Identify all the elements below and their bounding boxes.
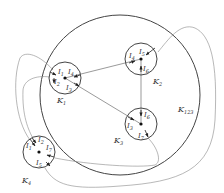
k123-label: K123 xyxy=(177,105,194,115)
node-k4: I1 I2 I7 I5 K4 xyxy=(21,136,55,186)
k3-label: K3 xyxy=(113,136,123,146)
k4-port-2: I2 xyxy=(37,136,44,145)
k2-port-6: I6 xyxy=(142,65,150,74)
k1-label: K1 xyxy=(56,96,66,106)
k4-port-1: I1 xyxy=(25,142,32,151)
k2-port-5: I5 xyxy=(138,48,145,57)
k1-port-4: I4 xyxy=(67,68,74,77)
k2-label: K2 xyxy=(152,77,162,87)
outer-region-k123 xyxy=(40,15,200,175)
k3-port-7: I7 xyxy=(137,132,145,141)
k1-port-3: I3 xyxy=(65,84,72,93)
k2-port-4: I4 xyxy=(128,52,135,61)
internal-edges xyxy=(65,59,141,124)
external-loops xyxy=(16,27,216,187)
k4-port-7: I7 xyxy=(45,144,53,153)
k3-port-6: I6 xyxy=(143,111,151,120)
k3-port-3: I3 xyxy=(126,122,133,131)
node-k1: I1 I4 I2 I3 K1 xyxy=(49,62,81,106)
circle-graph-diagram: I1 I4 I2 I3 K1 I4 I5 I6 K2 I6 I3 I7 K3 xyxy=(0,0,224,193)
k1-port-1: I1 xyxy=(57,68,64,77)
k4-label: K4 xyxy=(21,176,31,186)
k4-port-5: I5 xyxy=(35,159,42,168)
node-k2: I4 I5 I6 K2 xyxy=(125,43,162,87)
